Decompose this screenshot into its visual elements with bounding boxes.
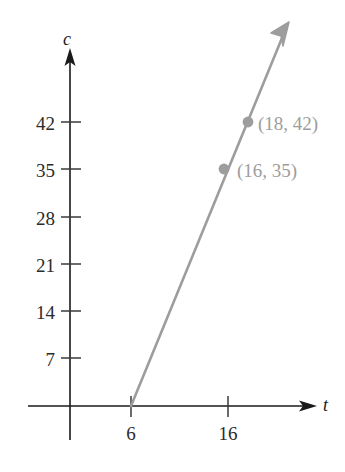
annotation-18-42: (18, 42): [258, 114, 318, 133]
y-axis-label: c: [63, 30, 71, 48]
data-line: [131, 38, 282, 406]
y-tick-label-21: 21: [36, 256, 55, 275]
annotation-16-35: (16, 35): [237, 161, 297, 180]
y-tick-label-28: 28: [36, 209, 55, 228]
coordinate-plane-chart: c t 42 35 28 21 14 7 6 16 (18, 42) (16, …: [0, 0, 345, 472]
y-tick-label-42: 42: [36, 114, 55, 133]
data-point-marker-18-42[interactable]: [243, 117, 254, 128]
x-axis-label: t: [323, 396, 328, 414]
chart-canvas: [0, 0, 345, 472]
y-axis-ticks: [61, 122, 81, 358]
y-tick-label-7: 7: [46, 350, 56, 369]
y-tick-label-14: 14: [36, 303, 55, 322]
x-tick-label-6: 6: [126, 424, 136, 443]
y-tick-label-35: 35: [36, 161, 55, 180]
x-tick-label-16: 16: [219, 424, 238, 443]
data-point-marker-16-35[interactable]: [219, 164, 230, 175]
